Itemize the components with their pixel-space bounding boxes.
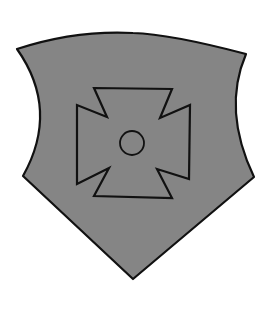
shield-illustration bbox=[0, 0, 273, 312]
shield-svg bbox=[0, 0, 273, 312]
